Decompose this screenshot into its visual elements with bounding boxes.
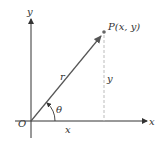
horizontal-leg-label: x <box>65 124 71 135</box>
polar-coordinate-diagram: y x O P(x, y) r y x θ <box>0 0 163 147</box>
angle-label: θ <box>56 104 62 115</box>
point-coords: (x, y) <box>115 21 141 32</box>
radius-vector <box>31 36 101 121</box>
vertical-leg-label: y <box>106 73 113 84</box>
x-axis-label: x <box>149 116 155 127</box>
angle-arc <box>47 103 55 121</box>
point-p <box>102 30 106 34</box>
origin-label: O <box>18 118 26 129</box>
y-axis-label: y <box>26 6 33 17</box>
point-label: P(x, y) <box>107 21 140 32</box>
